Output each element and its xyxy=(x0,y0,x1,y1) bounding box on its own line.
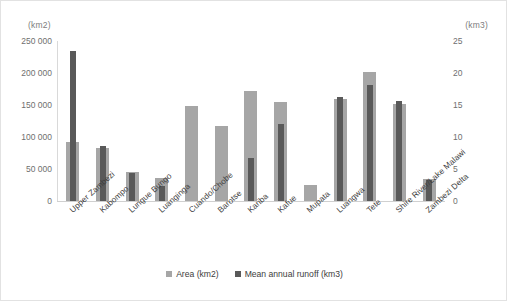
bar-group xyxy=(296,41,326,201)
chart-legend: Area (km2)Mean annual runoff (km3) xyxy=(1,269,507,279)
bar-group xyxy=(206,41,236,201)
right-axis-tick: 25 xyxy=(453,37,462,46)
right-axis-tick: 5 xyxy=(453,165,458,174)
bar-group xyxy=(266,41,296,201)
left-axis-tick: 0 xyxy=(47,197,52,206)
legend-swatch-icon xyxy=(166,271,172,277)
bar-group xyxy=(385,41,415,201)
left-axis-tick: 250 000 xyxy=(21,37,52,46)
right-axis-tick: 10 xyxy=(453,133,462,142)
bar-runoff xyxy=(278,124,284,201)
left-axis-tick: 100 000 xyxy=(21,133,52,142)
bar-group xyxy=(325,41,355,201)
bar-group xyxy=(147,41,177,201)
bar-runoff xyxy=(367,85,373,201)
right-axis-tick: 15 xyxy=(453,101,462,110)
right-axis-tick: 0 xyxy=(453,197,458,206)
bar-runoff xyxy=(100,146,106,201)
right-axis-tick: 20 xyxy=(453,69,462,78)
bar-group xyxy=(88,41,118,201)
right-axis-tick-labels: 0510152025 xyxy=(453,1,503,301)
left-axis-tick: 200 000 xyxy=(21,69,52,78)
bar-runoff xyxy=(426,180,432,201)
bar-group xyxy=(58,41,88,201)
chart-container: (km2) (km3) 050 000100 000150 000200 000… xyxy=(0,0,507,301)
bar-group xyxy=(355,41,385,201)
legend-item[interactable]: Area (km2) xyxy=(166,269,219,279)
bar-area xyxy=(215,126,228,201)
left-axis-tick: 50 000 xyxy=(26,165,52,174)
legend-item[interactable]: Mean annual runoff (km3) xyxy=(235,269,343,279)
bar-group xyxy=(117,41,147,201)
bar-group xyxy=(177,41,207,201)
bar-runoff xyxy=(396,101,402,201)
legend-label: Area (km2) xyxy=(176,269,219,279)
category-axis-line xyxy=(57,201,445,202)
bar-runoff xyxy=(248,158,254,201)
bar-runoff xyxy=(70,51,76,201)
bar-runoff xyxy=(159,186,165,201)
plot-area xyxy=(58,41,444,201)
bar-area xyxy=(304,185,317,201)
bar-area xyxy=(185,106,198,201)
left-axis-tick: 150 000 xyxy=(21,101,52,110)
legend-label: Mean annual runoff (km3) xyxy=(245,269,343,279)
legend-swatch-icon xyxy=(235,271,241,277)
bar-runoff xyxy=(337,97,343,201)
left-axis-tick-labels: 050 000100 000150 000200 000250 000 xyxy=(1,1,52,301)
bar-runoff xyxy=(129,173,135,201)
bar-group xyxy=(414,41,444,201)
bar-group xyxy=(236,41,266,201)
